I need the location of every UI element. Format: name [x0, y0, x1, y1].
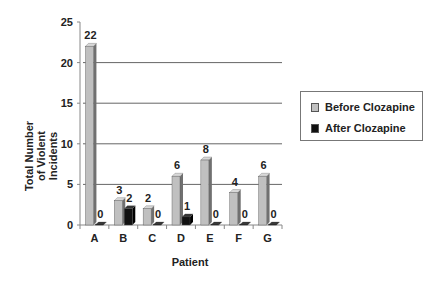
bar-before-clozapine — [114, 201, 122, 225]
bar-after-clozapine — [95, 224, 103, 225]
bar-side — [132, 206, 135, 225]
bar-before-clozapine — [143, 209, 151, 225]
y-tick-label: 15 — [61, 97, 73, 109]
bar-after-clozapine — [124, 209, 132, 225]
legend-item-after: After Clozapine — [311, 122, 406, 134]
x-tick-label: G — [263, 232, 272, 244]
data-label: 2 — [145, 192, 151, 204]
y-tick-label: 10 — [61, 138, 73, 150]
y-tick-label: 0 — [67, 219, 73, 231]
y-axis-title-line-2: of Violent — [35, 101, 47, 211]
data-label: 1 — [184, 200, 190, 212]
data-label: 8 — [203, 143, 209, 155]
bar-before-clozapine — [230, 193, 238, 225]
x-tick-label: F — [235, 232, 242, 244]
data-label: 22 — [84, 29, 96, 41]
bar-before-clozapine — [172, 176, 180, 225]
bar-side — [238, 190, 241, 225]
data-label: 0 — [155, 208, 161, 220]
bar-side — [209, 157, 212, 225]
y-axis-title-line-1: Total Number — [23, 101, 35, 211]
x-tick-label: A — [90, 232, 98, 244]
legend-label-after: After Clozapine — [325, 122, 406, 134]
bar-chart: 0510152025A220B32C20D61E80F40G60 — [0, 0, 436, 284]
legend-swatch-before — [311, 103, 319, 112]
data-label: 4 — [232, 176, 239, 188]
y-axis-title-line-3: Incidents — [47, 101, 59, 211]
data-label: 6 — [174, 159, 180, 171]
bar-after-clozapine — [269, 224, 277, 225]
y-tick-label: 25 — [61, 16, 73, 28]
data-label: 3 — [116, 184, 122, 196]
bar-before-clozapine — [85, 46, 93, 225]
bar-before-clozapine — [259, 176, 267, 225]
x-axis-title: Patient — [150, 256, 230, 268]
data-label: 0 — [271, 208, 277, 220]
data-label: 0 — [97, 208, 103, 220]
bar-after-clozapine — [182, 217, 190, 225]
legend: Before Clozapine After Clozapine — [300, 91, 423, 141]
x-tick-label: C — [148, 232, 156, 244]
y-tick-label: 20 — [61, 57, 73, 69]
data-label: 0 — [213, 208, 219, 220]
y-axis-title: Total Number of Violent Incidents — [23, 101, 59, 211]
data-label: 2 — [126, 192, 132, 204]
data-label: 6 — [261, 159, 267, 171]
legend-swatch-after — [311, 124, 319, 133]
data-label: 0 — [242, 208, 248, 220]
bar-after-clozapine — [153, 224, 161, 225]
bar-side — [93, 43, 96, 225]
legend-item-before: Before Clozapine — [311, 101, 415, 113]
legend-label-before: Before Clozapine — [325, 101, 415, 113]
bar-after-clozapine — [211, 224, 219, 225]
x-tick-label: E — [206, 232, 213, 244]
y-tick-label: 5 — [67, 178, 73, 190]
bar-side — [151, 206, 154, 225]
bar-before-clozapine — [201, 160, 209, 225]
bar-after-clozapine — [240, 224, 248, 225]
bar-side — [267, 173, 270, 225]
x-tick-label: D — [177, 232, 185, 244]
x-tick-label: B — [119, 232, 127, 244]
